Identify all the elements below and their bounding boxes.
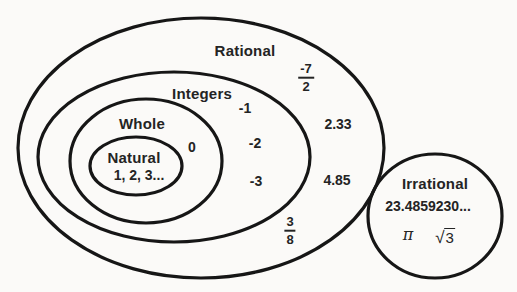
fraction-numerator: 3 <box>284 215 295 232</box>
whole-member-zero: 0 <box>188 139 196 155</box>
fraction-numerator: -7 <box>298 62 314 79</box>
natural-members-value: 1, 2, 3... <box>114 167 165 183</box>
irrational-set-circle <box>368 154 502 278</box>
radicand: 3 <box>445 228 455 246</box>
rational-set-label: Rational <box>215 42 276 59</box>
irrational-member-sqrt3: √3 <box>435 228 455 248</box>
rational-member-4-85: 4.85 <box>323 172 350 188</box>
natural-set-ellipse <box>90 137 182 195</box>
integer-member-neg1: -1 <box>239 100 251 116</box>
integer-member-neg3: -3 <box>250 173 262 189</box>
rational-member-fraction-three-eighths: 3 8 <box>284 215 295 248</box>
integer-member-neg2: -2 <box>249 135 261 151</box>
radical-sign: √ <box>435 228 444 247</box>
rational-member-2-33: 2.33 <box>324 116 351 132</box>
irrational-member-decimal: 23.4859230... <box>385 198 471 214</box>
irrational-member-pi: π <box>403 225 414 244</box>
whole-set-label: Whole <box>119 115 165 132</box>
integers-set-label: Integers <box>172 85 232 102</box>
rational-member-fraction-neg-seven-halves: -7 2 <box>298 62 314 95</box>
fraction-denominator: 8 <box>286 232 293 247</box>
natural-set-label: Natural <box>107 149 160 166</box>
irrational-set-label: Irrational <box>402 175 468 192</box>
fraction-denominator: 2 <box>302 79 309 94</box>
real-number-system-diagram: Rational Integers Whole Natural Irration… <box>0 0 517 292</box>
